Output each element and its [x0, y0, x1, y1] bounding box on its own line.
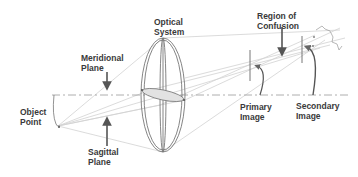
secondary-image-arrow — [307, 47, 315, 95]
primary-image-label: Primary Image — [240, 102, 272, 122]
sagittal-plane-label: Sagittal Plane — [88, 147, 119, 167]
object-point-marker — [53, 95, 60, 126]
primary-image-arrow — [257, 66, 263, 95]
region-of-confusion-outline — [316, 26, 342, 50]
optical-system-label: Optical System — [154, 17, 184, 37]
region-of-confusion-label: Region of Confusion — [257, 11, 299, 31]
meridional-plane-label: Meridional Plane — [81, 53, 124, 73]
object-point-label: Object Point — [20, 107, 46, 127]
secondary-image-label: Secondary Image — [296, 101, 339, 121]
